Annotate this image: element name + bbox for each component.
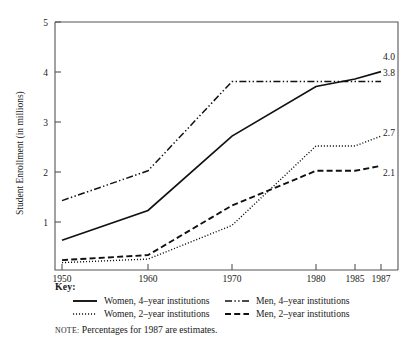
chart-note: NOTE: Percentages for 1987 are estimates… — [55, 324, 419, 335]
series-men-2year — [62, 166, 381, 260]
key-item-women-4year: Women, 4–year institutions — [72, 295, 224, 306]
series-women-4year — [62, 72, 381, 241]
key-swatch-solid-icon — [72, 296, 98, 306]
y-tick-4: 4 — [43, 68, 48, 78]
key-label-women-4year: Women, 4–year institutions — [104, 295, 210, 306]
series-women-2year — [62, 136, 381, 263]
note-text: Percentages for 1987 are estimates. — [82, 324, 218, 335]
axis-left-bottom — [55, 22, 398, 270]
key-title: Key: — [55, 281, 419, 292]
end-label-men-4year: 3.8 — [383, 68, 395, 78]
y-tick-5: 5 — [43, 18, 48, 28]
key-label-men-2year: Men, 2–year institutions — [256, 308, 350, 319]
y-axis-title: Student Enrollment (in millions) — [15, 91, 26, 215]
y-tick-2: 2 — [43, 168, 48, 178]
end-label-women-4year: 4.0 — [383, 52, 395, 62]
y-axis-tick-labels: 1 2 3 4 5 — [43, 18, 48, 228]
x-axis-ticks — [62, 264, 381, 270]
key-swatch-dash-dot-dot-icon — [224, 296, 250, 306]
key-items: Women, 4–year institutions Men, 4–year i… — [72, 295, 419, 319]
key-item-women-2year: Women, 2–year institutions — [72, 308, 224, 319]
key-item-men-2year: Men, 2–year institutions — [224, 308, 419, 319]
key-swatch-dotted-icon — [72, 309, 98, 319]
key-item-men-4year: Men, 4–year institutions — [224, 295, 419, 306]
key-swatch-dashed-icon — [224, 309, 250, 319]
key-label-women-2year: Women, 2–year institutions — [104, 308, 210, 319]
note-lead: NOTE: — [55, 326, 79, 335]
key-label-men-4year: Men, 4–year institutions — [256, 295, 350, 306]
series-men-4year — [62, 82, 381, 201]
axis-top-right — [55, 22, 398, 270]
y-tick-1: 1 — [43, 218, 48, 228]
end-label-women-2year: 2.7 — [383, 128, 395, 138]
y-axis-ticks — [55, 22, 61, 222]
end-label-men-2year: 2.1 — [383, 168, 395, 178]
y-tick-3: 3 — [43, 118, 48, 128]
chart-key: Key: Women, 4–year institutions Men, 4–y… — [0, 281, 419, 335]
